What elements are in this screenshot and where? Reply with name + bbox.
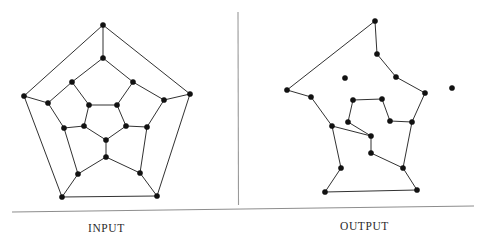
graph-edge [24, 25, 103, 96]
graph-edge [325, 190, 417, 192]
graph-vertex [372, 18, 377, 23]
graph-edge [78, 157, 106, 174]
graph-edge [117, 105, 126, 126]
graph-vertex [338, 165, 343, 170]
graph-edge [164, 94, 190, 100]
graph-edge [140, 173, 157, 196]
graph-edge [353, 99, 382, 100]
graph-vertex [161, 97, 166, 102]
graph-edge [24, 96, 48, 103]
graph-vertex [400, 165, 405, 170]
graph-edge [48, 82, 72, 103]
graph-vertex [368, 150, 373, 155]
figure-canvas: INPUT OUTPUT [0, 0, 482, 248]
input-graph-edges [24, 25, 190, 197]
graph-edge [62, 174, 78, 197]
graph-edge [403, 168, 417, 190]
graph-vertex [345, 119, 350, 124]
graph-edge [377, 54, 396, 77]
graph-edge [64, 128, 78, 174]
graph-edge [48, 103, 64, 128]
graph-vertex [329, 123, 334, 128]
graph-vertex [422, 90, 427, 95]
output-caption: OUTPUT [340, 220, 389, 232]
graph-edge [133, 82, 164, 100]
graph-vertex [81, 123, 86, 128]
graph-vertex [449, 85, 454, 90]
graph-edge [403, 122, 412, 168]
graph-vertex [103, 137, 108, 142]
graph-vertex [379, 96, 384, 101]
graph-edge [311, 97, 332, 126]
graph-vertex [103, 154, 108, 159]
graph-vertex [86, 102, 91, 107]
graph-edge [64, 126, 84, 128]
vertical-divider-line [238, 12, 239, 205]
graph-edge [332, 126, 341, 168]
graph-vertex [59, 194, 64, 199]
graph-vertex [21, 93, 26, 98]
graph-edge [72, 82, 89, 105]
graph-edge [332, 126, 371, 136]
graph-vertex [342, 75, 347, 80]
graph-vertex [284, 87, 289, 92]
graph-edge [390, 121, 412, 122]
graph-vertex [100, 55, 105, 60]
input-caption: INPUT [88, 222, 125, 234]
input-graph-vertices [21, 22, 192, 199]
graph-edge [84, 105, 89, 126]
graph-edge [412, 93, 425, 122]
graph-vertex [414, 187, 419, 192]
graph-edge [371, 153, 403, 168]
graph-edge [72, 58, 103, 82]
graph-vertex [130, 79, 135, 84]
graph-edge [325, 168, 341, 192]
horizontal-rule-line [12, 206, 474, 212]
graph-vertex [368, 133, 373, 138]
graph-edge [24, 96, 62, 197]
graph-edge [103, 25, 190, 94]
graph-edge [84, 126, 106, 140]
graph-vertex [69, 79, 74, 84]
graph-vertex [154, 193, 159, 198]
graph-edge [62, 196, 157, 197]
graph-edge [287, 21, 375, 90]
graph-figure [0, 0, 482, 248]
graph-edge [348, 122, 371, 136]
graph-vertex [137, 170, 142, 175]
graph-vertex [75, 171, 80, 176]
graph-vertex [322, 189, 327, 194]
graph-edge [106, 126, 126, 140]
graph-edge [157, 94, 190, 196]
graph-edge [117, 82, 133, 105]
graph-vertex [61, 125, 66, 130]
output-graph-vertices [284, 18, 454, 194]
graph-vertex [45, 100, 50, 105]
graph-vertex [100, 22, 105, 27]
graph-vertex [393, 74, 398, 79]
graph-edge [103, 58, 133, 82]
graph-vertex [308, 94, 313, 99]
graph-edge [396, 77, 425, 93]
graph-vertex [123, 123, 128, 128]
graph-vertex [114, 102, 119, 107]
graph-vertex [374, 51, 379, 56]
graph-vertex [187, 91, 192, 96]
graph-edge [126, 126, 147, 127]
graph-edge [375, 21, 377, 54]
graph-edge [382, 99, 390, 121]
graph-vertex [144, 124, 149, 129]
graph-vertex [409, 119, 414, 124]
graph-edge [106, 157, 140, 173]
graph-edge [147, 100, 164, 127]
graph-edge [348, 100, 353, 122]
graph-vertex [387, 118, 392, 123]
graph-edge [140, 127, 147, 173]
graph-edge [287, 90, 311, 97]
graph-vertex [350, 97, 355, 102]
